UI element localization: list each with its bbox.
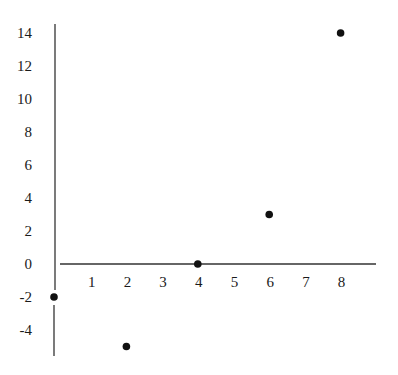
y-tick-label: -2 [20,289,33,305]
y-tick-label: 6 [25,157,33,173]
data-point [194,260,202,268]
y-tick-label: 14 [17,25,33,41]
scatter-plot: 14121086420-2-4 12345678 [0,0,398,375]
data-point [123,343,131,351]
x-tick-labels: 12345678 [88,274,345,290]
data-points [50,29,344,350]
y-tick-label: 8 [25,124,33,140]
x-tick-label: 8 [338,274,346,290]
x-tick-label: 6 [266,274,274,290]
y-tick-label: 2 [25,223,33,239]
data-point [265,211,273,219]
y-tick-labels: 14121086420-2-4 [17,25,33,338]
x-tick-label: 4 [195,274,203,290]
data-point [337,29,345,37]
x-tick-label: 3 [159,274,167,290]
y-tick-label: 4 [25,190,33,206]
x-tick-label: 2 [124,274,132,290]
y-axis [54,24,55,356]
y-tick-label: 10 [17,91,32,107]
x-tick-label: 5 [231,274,239,290]
y-tick-label: 12 [17,58,32,74]
x-tick-label: 1 [88,274,96,290]
y-tick-label: -4 [20,322,33,338]
data-point [50,293,58,301]
y-tick-label: 0 [25,256,33,272]
x-tick-label: 7 [302,274,310,290]
